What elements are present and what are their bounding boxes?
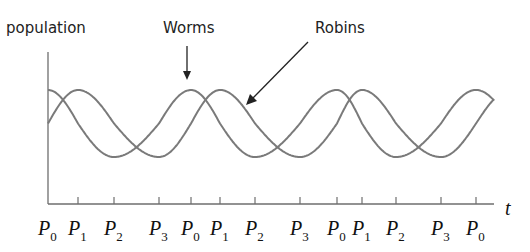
- predator-prey-chart: population Worms Robins t P0P1P2P3P0P1P2…: [0, 0, 530, 252]
- x-axis-ticks: [78, 197, 476, 204]
- x-tick-label: P0: [37, 217, 57, 244]
- x-tick-label: P1: [209, 217, 229, 244]
- x-tick-label: P3: [289, 217, 309, 244]
- x-axis-tick-labels: P0P1P2P3P0P1P2P3P0P1P2P3P0: [37, 217, 485, 244]
- x-tick-label: P2: [103, 217, 123, 244]
- x-tick-label: P2: [244, 217, 264, 244]
- x-tick-label: P3: [148, 217, 168, 244]
- x-tick-label: P0: [326, 217, 346, 244]
- worms-arrowhead-icon: [183, 71, 191, 80]
- robins-arrow: [253, 42, 308, 98]
- x-tick-label: P1: [351, 217, 371, 244]
- worms-label: Worms: [163, 19, 215, 37]
- x-tick-label: P2: [385, 217, 405, 244]
- x-tick-label: P0: [180, 217, 200, 244]
- x-tick-label: P1: [67, 217, 87, 244]
- robins-label: Robins: [315, 19, 365, 37]
- robins-curve: [48, 90, 494, 157]
- x-tick-label: P3: [430, 217, 450, 244]
- y-axis-label: population: [6, 19, 86, 37]
- x-tick-label: P0: [465, 217, 485, 244]
- x-axis-label: t: [505, 197, 511, 219]
